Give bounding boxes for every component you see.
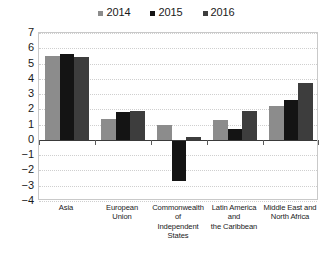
zero-axis-line	[39, 140, 317, 141]
y-tick-label: 5	[2, 57, 34, 68]
y-tick-label: 3	[2, 88, 34, 99]
y-tick-label: 1	[2, 118, 34, 129]
y-tick-label: −1	[2, 149, 34, 160]
legend-label: 2016	[211, 7, 235, 18]
bar-2016-3	[242, 111, 257, 140]
axis-end-tick	[318, 140, 319, 145]
y-tick-label: 7	[2, 27, 34, 38]
x-axis-category-label: Latin Americaandthe Caribbean	[206, 203, 262, 231]
bar-2014-0	[45, 56, 60, 140]
legend-item-2015: 2015	[150, 7, 182, 18]
legend-item-2014: 2014	[98, 7, 130, 18]
y-tick-label: −2	[2, 164, 34, 175]
legend-label: 2014	[106, 7, 130, 18]
legend-swatch-icon	[150, 11, 155, 16]
axis-end-tick	[39, 140, 40, 145]
category-tick	[151, 140, 152, 145]
bar-2016-0	[74, 57, 89, 139]
x-axis-labels: AsiaEuropeanUnionCommonwealthofIndepende…	[38, 203, 318, 253]
legend-swatch-icon	[98, 11, 103, 16]
category-tick	[207, 140, 208, 145]
bar-2014-2	[157, 125, 172, 140]
y-tick-label: 6	[2, 42, 34, 53]
chart-legend: 201420152016	[0, 4, 333, 20]
y-tick-label: 0	[2, 133, 34, 144]
gridline	[39, 186, 317, 187]
y-tick-label: −4	[2, 195, 34, 206]
bar-2015-2	[172, 140, 187, 181]
legend-swatch-icon	[203, 11, 208, 16]
gridline	[39, 48, 317, 49]
bar-2015-0	[60, 54, 75, 140]
gridline	[39, 201, 317, 202]
bar-2016-4	[298, 83, 313, 140]
bar-2014-1	[101, 119, 116, 140]
gridline	[39, 33, 317, 34]
y-tick-label: 4	[2, 72, 34, 83]
x-axis-category-label: CommonwealthofIndependentStates	[150, 203, 206, 241]
y-tick-label: 2	[2, 103, 34, 114]
y-tick-label: −3	[2, 179, 34, 190]
bar-2015-4	[284, 100, 299, 140]
bar-2016-1	[130, 111, 145, 140]
category-tick	[263, 140, 264, 145]
x-axis-category-label: Asia	[38, 203, 94, 212]
bar-chart: 201420152016 76543210−1−2−3−4 AsiaEurope…	[0, 0, 333, 255]
x-axis-category-label: Middle East andNorth Africa	[262, 203, 318, 222]
x-axis-category-label: EuropeanUnion	[94, 203, 150, 222]
legend-label: 2015	[158, 7, 182, 18]
bar-2015-3	[228, 129, 243, 140]
plot-area	[38, 32, 318, 200]
legend-item-2016: 2016	[203, 7, 235, 18]
y-axis: 76543210−1−2−3−4	[0, 32, 34, 200]
category-tick	[95, 140, 96, 145]
bar-2015-1	[116, 112, 131, 139]
bar-2014-3	[213, 120, 228, 140]
bar-2014-4	[269, 106, 284, 140]
